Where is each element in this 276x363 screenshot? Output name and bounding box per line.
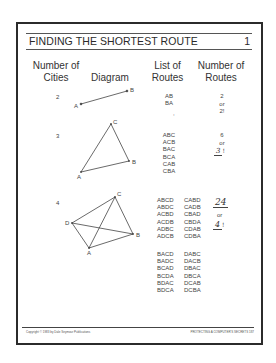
diagram-3-cities [81,124,129,172]
label-b-3: B [132,159,136,167]
cities-count-3: 3 [56,133,59,139]
route-count-4-value: 24 [213,197,228,208]
cities-count-4: 4 [56,200,59,206]
route-diagrams [0,0,276,363]
routes-list-4-col1: ABCD ABDC ACBD ACDB ADBC ADCB [157,197,174,240]
label-c-3: C [113,119,117,127]
footer-book-title: PROTECTING A COMPUTER'S SECRETS 187 [190,330,254,334]
label-a-2: A [74,103,78,111]
label-b-2: B [130,87,134,95]
footer-divider [22,327,254,328]
route-count-2: 2 or 2! [212,93,232,116]
routes-list-4-col4: DABC DACB DBAC DBCA DCAB DCBA [184,251,201,294]
route-count-3-factorial: 3! [214,147,225,156]
diagram-4-cities [72,197,133,248]
route-count-3: 6 or [210,132,234,147]
diagram-2-cities [80,90,128,105]
stray-mark: , [173,110,175,118]
route-count-4-or: or [217,212,222,220]
label-b-4: B [136,232,140,240]
footer-copyright: Copyright © 1983 by Dale Seymour Publica… [26,330,90,334]
route-count-4-factorial: 4! [213,220,225,230]
routes-list-3: ABC ACB BAC BCA CAB CBA [157,132,181,175]
routes-list-4-col2: CABD CADB CBAD CBDA CDAB CDBA [184,197,201,240]
label-d-4: D [65,220,69,228]
routes-list-2: AB BA [159,93,179,107]
label-a-4: A [87,250,91,258]
label-a-3: A [77,174,81,182]
routes-list-4-col3: BACD BADC BCAD BCDA BDAC BDCA [157,251,174,294]
label-c-4: C [117,191,121,199]
cities-count-2: 2 [56,94,59,100]
